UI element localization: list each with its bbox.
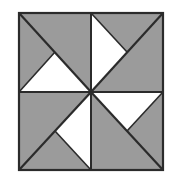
pinwheel-quilt-diagram [0, 0, 173, 183]
figure-root [0, 0, 173, 183]
